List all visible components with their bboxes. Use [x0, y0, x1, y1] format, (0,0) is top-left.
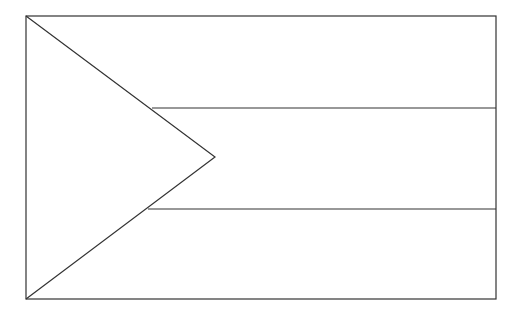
flag-outline-canvas: [0, 0, 521, 319]
flag-outline-drawing: [0, 0, 521, 319]
flag-border: [26, 16, 496, 299]
